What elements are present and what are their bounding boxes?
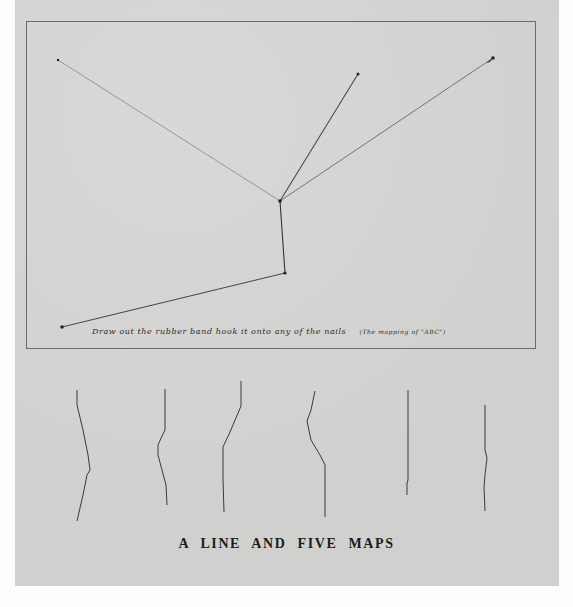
nail-lower	[283, 271, 286, 274]
band-line-top-left	[58, 60, 280, 201]
band-line-top-right	[280, 58, 493, 201]
map-5	[484, 405, 487, 511]
artwork-title: A LINE AND FIVE MAPS	[0, 536, 573, 552]
the-line	[407, 390, 408, 495]
map-3	[223, 381, 241, 512]
line-center-to-lower	[280, 201, 285, 273]
line-drawing	[0, 0, 573, 607]
instruction-text: Draw out the rubber band hook it onto an…	[92, 327, 346, 336]
nail-top-middle	[357, 73, 360, 76]
band-line-top-middle	[280, 74, 358, 201]
map-4	[307, 391, 325, 517]
nail-top-left	[57, 59, 59, 61]
instruction-note: (The mapping of "ABC")	[359, 328, 445, 335]
nail-center	[278, 199, 282, 203]
map-2	[158, 389, 167, 505]
map-1	[77, 390, 90, 521]
nail-bottom-left	[60, 325, 64, 329]
line-lower-to-bottom-left	[62, 273, 285, 327]
instruction-caption: Draw out the rubber band hook it onto an…	[92, 327, 532, 336]
